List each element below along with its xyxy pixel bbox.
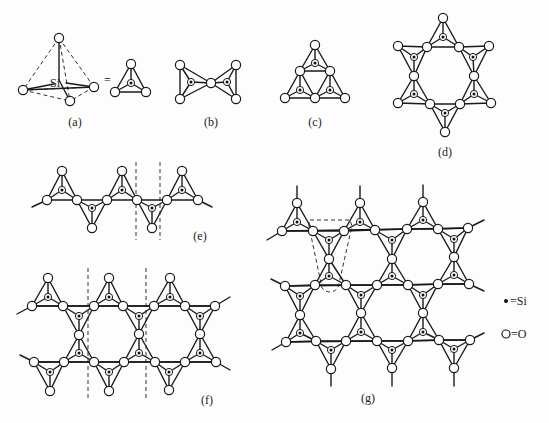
oxygen-atom-icon [409, 71, 418, 80]
panel-label-b: (b) [204, 115, 218, 129]
oxygen-atom-icon [57, 166, 66, 175]
oxygen-atom-icon [89, 301, 98, 310]
oxygen-atom-icon [465, 335, 474, 344]
silicon-atom-icon [226, 81, 229, 84]
oxygen-atom-icon [102, 195, 111, 204]
silicon-atom-icon [108, 296, 111, 299]
silicon-atom-icon [314, 62, 317, 65]
silicon-atom-icon [130, 82, 133, 85]
oxygen-atom-icon [147, 223, 156, 232]
silicon-atom-icon [151, 207, 154, 210]
silicon-atom-icon [299, 332, 302, 335]
oxygen-atom-icon [149, 301, 158, 310]
oxygen-atom-icon [193, 195, 202, 204]
oxygen-atom-icon [210, 301, 219, 310]
oxygen-atom-icon [58, 301, 67, 310]
silicon-atom-icon [121, 189, 124, 192]
oxygen-atom-icon [418, 197, 427, 206]
silicon-atom-icon [391, 275, 394, 278]
oxygen-atom-icon [463, 223, 472, 232]
oxygen-atom-icon [422, 42, 431, 51]
oxygen-atom-icon [387, 363, 396, 372]
silicon-atom-icon [328, 239, 331, 242]
dashed-edge [59, 38, 94, 87]
oxygen-atom-icon [339, 226, 348, 235]
oxygen-atom-icon [164, 385, 173, 394]
atoms-layer [18, 13, 495, 395]
silicon-atom-icon [61, 189, 64, 192]
oxygen-atom-icon [454, 42, 463, 51]
oxygen-atom-icon [18, 85, 27, 94]
oxygen-atom-icon [372, 280, 381, 289]
oxygen-atom-icon [43, 273, 52, 282]
silicon-atom-icon [422, 219, 425, 222]
oxygen-atom-icon [292, 198, 301, 207]
silicon-atom-icon [91, 207, 94, 210]
silicon-atom-icon [444, 112, 447, 115]
silicon-atom-icon [442, 36, 445, 39]
oxygen-atom-icon [464, 279, 473, 288]
silicon-atom-icon [181, 189, 184, 192]
oxygen-atom-icon [126, 59, 135, 68]
dashed-edge [23, 90, 70, 101]
oxygen-atom-icon [72, 195, 81, 204]
oxygen-atom-icon [341, 280, 350, 289]
silicon-atom-icon [360, 331, 363, 334]
silicon-atom-icon [422, 294, 425, 297]
silicon-atom-icon [296, 221, 299, 224]
silicon-atom-icon [453, 274, 456, 277]
silicon-atom-icon [199, 352, 202, 355]
legend-oxygen-circle-icon [502, 330, 510, 338]
equals-sign: = [104, 73, 111, 87]
oxygen-atom-icon [134, 329, 143, 338]
panel-label-g: (g) [361, 391, 375, 405]
oxygen-atom-icon [393, 41, 402, 50]
oxygen-atom-icon [87, 223, 96, 232]
oxygen-atom-icon [311, 336, 320, 345]
silicon-atom-icon [108, 371, 111, 374]
oxygen-atom-icon [280, 281, 289, 290]
silicon-atom-icon [473, 93, 476, 96]
oxygen-atom-icon [355, 198, 364, 207]
legend-o-label: =O [511, 327, 527, 341]
oxygen-atom-icon [231, 60, 240, 69]
oxygen-atom-icon [403, 280, 412, 289]
oxygen-atom-icon [310, 40, 319, 49]
oxygen-atom-icon [280, 93, 289, 102]
oxygen-atom-icon [119, 357, 128, 366]
oxygen-atom-icon [89, 82, 98, 91]
silicon-atom-icon [359, 221, 362, 224]
oxygen-atom-icon [295, 310, 304, 319]
oxygen-atom-icon [89, 357, 98, 366]
silicate-structures-figure: (a) Si = (b) (c) (d) (e) (f) (g) =Si =O [0, 0, 549, 423]
oxygen-atom-icon [324, 254, 333, 263]
oxygen-atom-icon [117, 166, 126, 175]
silicon-atom-icon [330, 349, 333, 352]
panel-label-f: (f) [201, 393, 213, 407]
oxygen-atom-icon [27, 301, 36, 310]
silicon-atom-icon [190, 81, 193, 84]
oxygen-atom-icon [310, 280, 319, 289]
panel-label-e: (e) [193, 229, 206, 243]
silicon-atom-icon [168, 371, 171, 374]
silicon-atom-icon [299, 295, 302, 298]
oxygen-atom-icon [150, 357, 159, 366]
oxygen-atom-icon [387, 254, 396, 263]
oxygen-atom-icon [195, 329, 204, 338]
oxygen-atom-icon [486, 98, 495, 107]
silicon-atom-icon [329, 89, 332, 92]
silicon-atom-icon [413, 56, 416, 59]
oxygen-atom-icon [104, 386, 113, 395]
oxygen-atom-icon [175, 94, 184, 103]
si-atom-text: Si [50, 76, 61, 90]
oxygen-atom-icon [177, 166, 186, 175]
silicon-atom-icon [78, 352, 81, 355]
silicon-atom-icon [472, 56, 475, 59]
oxygen-atom-icon [340, 93, 349, 102]
silicon-atom-icon [413, 93, 416, 96]
panel-label-d: (d) [438, 145, 452, 159]
oxygen-atom-icon [54, 33, 63, 42]
oxygen-atom-icon [425, 99, 434, 108]
oxygen-atom-icon [118, 301, 127, 310]
silicon-atom-icon [47, 296, 50, 299]
